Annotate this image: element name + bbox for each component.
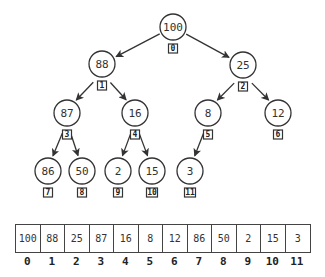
array-index: 1 xyxy=(40,255,65,268)
tree-node: 12 xyxy=(265,100,291,126)
tree-node: 87 xyxy=(54,100,80,126)
tree-edge xyxy=(252,83,269,100)
node-index-badge: 8 xyxy=(78,188,87,197)
array-index: 11 xyxy=(285,255,310,268)
array-cell: 3 xyxy=(286,225,311,252)
node-index-badge: 7 xyxy=(44,188,53,197)
svg-text:0: 0 xyxy=(171,44,176,53)
svg-text:50: 50 xyxy=(75,165,88,178)
tree-edge xyxy=(186,34,229,57)
svg-text:2: 2 xyxy=(115,165,122,178)
svg-text:16: 16 xyxy=(128,107,141,120)
svg-text:15: 15 xyxy=(145,165,158,178)
node-index-badge: 11 xyxy=(185,188,196,197)
array-cell: 2 xyxy=(237,225,262,252)
tree-node: 86 xyxy=(35,158,61,184)
tree-node: 8 xyxy=(195,100,221,126)
svg-text:86: 86 xyxy=(41,165,54,178)
svg-text:3: 3 xyxy=(65,130,70,139)
svg-text:11: 11 xyxy=(185,188,195,197)
array-cell: 12 xyxy=(163,225,188,252)
tree-node: 25 xyxy=(230,52,256,78)
tree-node: 88 xyxy=(89,51,115,77)
array-index: 6 xyxy=(162,255,187,268)
array-cell: 15 xyxy=(261,225,286,252)
tree-node: 100 xyxy=(160,14,186,40)
tree-edge xyxy=(116,34,160,57)
svg-text:4: 4 xyxy=(133,130,138,139)
svg-text:1: 1 xyxy=(100,81,105,90)
array-cell: 86 xyxy=(188,225,213,252)
node-index-badge: 10 xyxy=(147,188,158,197)
tree-node: 2 xyxy=(105,158,131,184)
svg-text:5: 5 xyxy=(206,130,211,139)
node-index-badge: 9 xyxy=(114,188,123,197)
svg-text:87: 87 xyxy=(60,107,73,120)
array-cell: 8 xyxy=(139,225,164,252)
array-index: 9 xyxy=(236,255,261,268)
array-index: 2 xyxy=(64,255,89,268)
array-index: 3 xyxy=(89,255,114,268)
svg-text:6: 6 xyxy=(276,130,281,139)
tree-edge xyxy=(76,82,93,100)
svg-text:10: 10 xyxy=(147,188,157,197)
array-cell: 100 xyxy=(16,225,41,252)
tree-edge xyxy=(139,133,147,155)
array-index: 8 xyxy=(211,255,236,268)
svg-text:12: 12 xyxy=(271,107,284,120)
array-index: 5 xyxy=(138,255,163,268)
node-index-badge: 0 xyxy=(169,44,178,53)
array-index: 4 xyxy=(113,255,138,268)
svg-text:2: 2 xyxy=(241,82,246,91)
tree-edge xyxy=(53,133,62,156)
heap-tree: 100088125287316485126867508291510311 xyxy=(0,0,325,215)
array-index-labels: 01234567891011 xyxy=(15,255,309,268)
tree-node: 15 xyxy=(139,158,165,184)
svg-text:3: 3 xyxy=(187,165,194,178)
tree-node: 16 xyxy=(122,100,148,126)
tree-edge xyxy=(195,133,204,155)
array-index: 0 xyxy=(15,255,40,268)
svg-text:8: 8 xyxy=(80,188,85,197)
svg-text:100: 100 xyxy=(163,21,183,34)
svg-text:8: 8 xyxy=(205,107,212,120)
node-index-badge: 4 xyxy=(131,130,140,139)
array-cell: 16 xyxy=(114,225,139,252)
node-index-badge: 6 xyxy=(274,130,283,139)
tree-edge xyxy=(123,133,131,155)
array-cell: 50 xyxy=(212,225,237,252)
array-index: 7 xyxy=(187,255,212,268)
tree-edge xyxy=(110,82,126,99)
node-index-badge: 5 xyxy=(204,130,213,139)
node-index-badge: 1 xyxy=(98,81,107,90)
array-cell: 87 xyxy=(90,225,115,252)
array-cell: 25 xyxy=(65,225,90,252)
svg-text:88: 88 xyxy=(95,58,108,71)
tree-node: 50 xyxy=(69,158,95,184)
svg-text:7: 7 xyxy=(46,188,51,197)
array-index: 10 xyxy=(260,255,285,268)
heap-array: 1008825871681286502153 xyxy=(15,224,311,253)
svg-text:25: 25 xyxy=(236,59,249,72)
tree-node: 3 xyxy=(177,158,203,184)
node-index-badge: 2 xyxy=(239,82,248,91)
array-cell: 88 xyxy=(41,225,66,252)
svg-text:9: 9 xyxy=(116,188,121,197)
node-index-badge: 3 xyxy=(63,130,72,139)
tree-edge xyxy=(217,83,234,100)
